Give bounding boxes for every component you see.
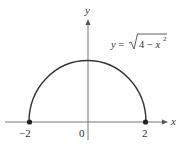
y-axis-label: y [84, 4, 90, 16]
tick-label-0: 0 [79, 127, 85, 139]
semicircle-curve [29, 60, 146, 122]
y-axis-arrow-icon [86, 19, 91, 25]
semicircle-plot: x y −2 0 2 y = 4 − x 2 [0, 0, 189, 144]
x-axis-arrow-icon [162, 120, 168, 125]
x-axis-label: x [170, 115, 176, 127]
endpoint-pos2 [143, 119, 148, 124]
function-equation: y = 4 − x 2 [110, 34, 167, 50]
endpoint-neg2 [27, 119, 32, 124]
tick-label-2: 2 [142, 127, 148, 139]
equation-exponent: 2 [163, 35, 167, 43]
equation-prefix: y = [110, 39, 124, 50]
tick-label-neg2: −2 [19, 127, 31, 139]
equation-radicand: 4 − x [139, 39, 160, 50]
